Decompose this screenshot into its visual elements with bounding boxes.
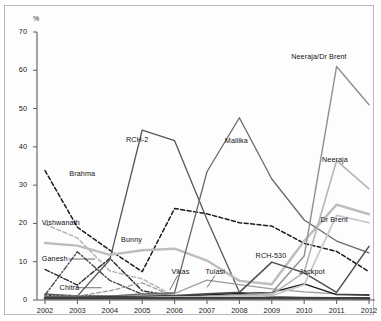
chart-figure: % 010203040506070 2002200320042005200620…	[0, 0, 381, 321]
series-label-rch-2: RCH-2	[126, 135, 148, 144]
series-label-vikas: Vikas	[171, 267, 189, 276]
x-axis-tick-label: 2010	[289, 306, 319, 315]
x-axis-tick-label: 2006	[160, 306, 190, 315]
series-label-jackpot: Jackpot	[299, 267, 324, 276]
y-axis-tick-label: 60	[11, 65, 27, 74]
y-axis-tick-label: 70	[11, 27, 27, 36]
x-axis-tick-label: 2012	[354, 306, 381, 315]
series-line-neeraja-dr-brent	[45, 66, 369, 297]
series-label-rch-530: RCH-530	[256, 251, 287, 260]
series-label-chitra: Chitra	[60, 283, 80, 292]
series-label-tulasi: Tulasi	[205, 267, 225, 276]
x-axis-tick-label: 2002	[30, 306, 60, 315]
chart-series	[45, 66, 369, 298]
series-label-brahma: Brahma	[69, 169, 95, 178]
series-label-bunny: Bunny	[121, 235, 142, 244]
series-label-vishwanath: Vishwanath	[42, 218, 80, 227]
series-label-neeraja-dr-brent: Neeraja/Dr Brent	[291, 52, 347, 61]
x-axis-tick-label: 2009	[257, 306, 287, 315]
x-axis-tick-label: 2005	[127, 306, 157, 315]
x-axis-tick-label: 2011	[322, 306, 352, 315]
y-axis-tick-label: 10	[11, 257, 27, 266]
series-label-neeraja: Neeraja	[322, 155, 348, 164]
series-label-mallika: Mallika	[225, 136, 248, 145]
y-axis-tick-label: 20	[11, 218, 27, 227]
y-axis-tick-label: 30	[11, 180, 27, 189]
x-axis-tick-label: 2008	[224, 306, 254, 315]
label-leader-line	[170, 275, 178, 290]
y-axis-tick-label: 0	[11, 295, 27, 304]
series-label-ganesh: Ganesh	[42, 254, 68, 263]
series-line-dr-brent	[45, 215, 369, 298]
y-axis-tick-label: 50	[11, 104, 27, 113]
x-axis-tick-label: 2003	[62, 306, 92, 315]
x-axis-tick-label: 2004	[95, 306, 125, 315]
y-axis-tick-label: 40	[11, 142, 27, 151]
x-axis-tick-label: 2007	[192, 306, 222, 315]
series-label-dr-brent: Dr Brent	[320, 215, 348, 224]
